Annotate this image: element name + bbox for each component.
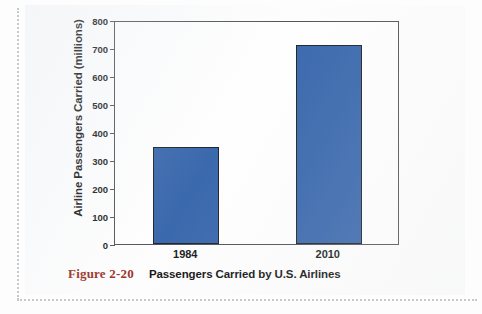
figure-caption-number: Figure 2-20: [68, 266, 134, 282]
x-axis-tick-labels: 19842010: [114, 248, 399, 264]
figure-caption: Figure 2-20 Passengers Carried by U.S. A…: [68, 266, 341, 282]
y-tick-mark: [110, 21, 115, 22]
x-tick-label: 2010: [316, 248, 340, 260]
y-tick-label: 500: [82, 100, 108, 111]
y-tick-label: 800: [82, 16, 108, 27]
bar-1984: [153, 147, 219, 244]
figure-page: Airline Passengers Carried (millions) 01…: [0, 0, 482, 314]
bar-group: [115, 22, 398, 244]
figure-caption-text: Passengers Carried by U.S. Airlines: [149, 268, 341, 280]
y-tick-label: 400: [82, 128, 108, 139]
y-tick-mark: [110, 189, 115, 190]
y-tick-mark: [110, 217, 115, 218]
y-tick-label: 0: [82, 240, 108, 251]
bar-chart-figure: Airline Passengers Carried (millions) 01…: [0, 0, 482, 314]
y-tick-mark: [110, 133, 115, 134]
y-tick-mark: [110, 245, 115, 246]
x-tick-label: 1984: [173, 248, 197, 260]
bar-2010: [296, 45, 362, 244]
y-tick-mark: [110, 77, 115, 78]
y-tick-label: 100: [82, 212, 108, 223]
y-tick-mark: [110, 49, 115, 50]
y-tick-label: 300: [82, 156, 108, 167]
y-tick-label: 200: [82, 184, 108, 195]
y-axis-tick-labels: 0100200300400500600700800: [82, 21, 108, 245]
plot-area: [114, 21, 399, 245]
y-tick-label: 600: [82, 72, 108, 83]
y-tick-label: 700: [82, 44, 108, 55]
y-tick-mark: [110, 105, 115, 106]
y-tick-mark: [110, 161, 115, 162]
